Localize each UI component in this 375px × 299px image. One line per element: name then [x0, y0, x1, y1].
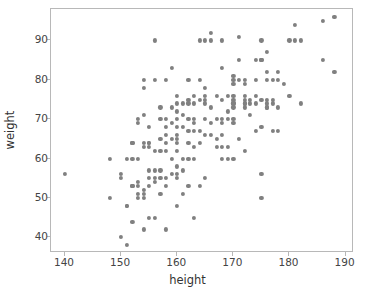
data-point	[276, 78, 280, 82]
data-point	[175, 176, 179, 180]
data-point	[259, 172, 263, 176]
data-point	[125, 204, 129, 208]
data-point	[141, 145, 145, 149]
data-point	[119, 172, 123, 176]
data-point	[181, 192, 185, 196]
data-point	[164, 117, 168, 121]
x-tick-mark	[288, 252, 289, 256]
x-tick-label: 160	[166, 256, 186, 268]
data-point	[203, 86, 207, 90]
data-point	[231, 105, 235, 109]
data-point	[209, 121, 213, 125]
data-point	[170, 105, 174, 109]
data-point	[237, 78, 241, 82]
data-point	[108, 196, 112, 200]
data-point	[220, 97, 224, 101]
data-point	[192, 121, 196, 125]
data-point	[186, 101, 190, 105]
data-point	[108, 156, 112, 160]
data-point	[203, 117, 207, 121]
data-point	[164, 149, 168, 153]
data-point	[130, 156, 134, 160]
data-point	[254, 58, 258, 62]
data-point	[237, 137, 241, 141]
data-point	[147, 125, 151, 129]
data-point	[293, 38, 297, 42]
data-point	[164, 133, 168, 137]
x-tick-label: 170	[222, 256, 242, 268]
data-point	[226, 156, 230, 160]
data-point	[220, 66, 224, 70]
data-point	[164, 227, 168, 231]
data-point	[181, 125, 185, 129]
data-point	[271, 78, 275, 82]
data-point	[220, 121, 224, 125]
data-point	[186, 117, 190, 121]
x-tick-mark	[232, 252, 233, 256]
data-point	[136, 117, 140, 121]
scatter-chart-figure: 140150160170180190405060708090 height we…	[0, 0, 375, 299]
data-point	[141, 227, 145, 231]
data-point	[141, 86, 145, 90]
data-point	[130, 184, 134, 188]
data-point	[242, 105, 246, 109]
data-point	[136, 184, 140, 188]
data-point	[175, 117, 179, 121]
data-point	[192, 101, 196, 105]
y-tick-label: 90	[35, 33, 48, 45]
data-point	[226, 117, 230, 121]
data-point	[209, 38, 213, 42]
data-point	[231, 82, 235, 86]
data-point	[332, 15, 336, 19]
data-point	[299, 38, 303, 42]
x-tick-label: 140	[54, 256, 74, 268]
data-point	[136, 156, 140, 160]
data-point	[192, 156, 196, 160]
data-point	[181, 168, 185, 172]
data-point	[259, 97, 263, 101]
data-point	[209, 133, 213, 137]
y-tick-label: 70	[35, 112, 48, 124]
data-point	[198, 184, 202, 188]
data-point	[265, 70, 269, 74]
data-point	[254, 129, 258, 133]
data-point	[214, 145, 218, 149]
data-point	[175, 109, 179, 113]
data-point	[175, 141, 179, 145]
data-point	[198, 38, 202, 42]
data-point	[186, 141, 190, 145]
data-point	[192, 129, 196, 133]
data-point	[265, 78, 269, 82]
data-point	[198, 78, 202, 82]
data-point	[141, 113, 145, 117]
data-point	[158, 105, 162, 109]
data-point	[170, 121, 174, 125]
data-point	[119, 235, 123, 239]
data-point	[175, 164, 179, 168]
data-point	[158, 176, 162, 180]
data-point	[175, 93, 179, 97]
data-point	[259, 38, 263, 42]
data-point	[209, 105, 213, 109]
data-point	[220, 133, 224, 137]
data-point	[170, 172, 174, 176]
data-point	[125, 156, 129, 160]
data-point	[153, 38, 157, 42]
data-point	[181, 101, 185, 105]
data-point	[153, 78, 157, 82]
data-point	[170, 156, 174, 160]
data-point	[125, 243, 129, 247]
data-point	[130, 141, 134, 145]
data-point	[186, 78, 190, 82]
data-point	[153, 180, 157, 184]
data-point	[130, 219, 134, 223]
data-point	[153, 149, 157, 153]
data-point	[265, 50, 269, 54]
data-point	[164, 125, 168, 129]
data-point	[119, 176, 123, 180]
data-point	[153, 168, 157, 172]
data-point	[181, 113, 185, 117]
data-point	[186, 184, 190, 188]
data-point	[259, 196, 263, 200]
data-point	[293, 23, 297, 27]
